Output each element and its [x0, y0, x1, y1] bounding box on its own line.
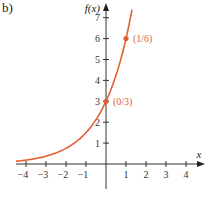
- data-point-marker: [103, 99, 108, 104]
- x-axis-title: x: [196, 148, 202, 160]
- y-tick-label: 1: [95, 138, 100, 149]
- x-tick-label: −2: [58, 169, 69, 180]
- x-tick-label: 3: [164, 169, 169, 180]
- x-tick-label: −1: [78, 169, 89, 180]
- data-point-label: (0/3): [113, 96, 132, 108]
- x-tick-label: 4: [184, 169, 189, 180]
- data-point-label: (1/6): [133, 33, 152, 45]
- y-tick-label: 6: [95, 33, 100, 44]
- y-axis-arrow-icon: [103, 3, 109, 11]
- y-tick-label: 3: [95, 96, 100, 107]
- function-curve: [16, 10, 132, 162]
- x-tick-label: −3: [38, 169, 49, 180]
- x-axis-arrow-icon: [197, 161, 205, 167]
- y-tick-label: 5: [95, 54, 100, 65]
- x-tick-label: 2: [144, 169, 149, 180]
- y-axis-title: f(x): [85, 2, 101, 15]
- data-point-marker: [123, 36, 128, 41]
- x-tick-label: 1: [124, 169, 129, 180]
- function-graph: −4−3−2−112341234567xf(x)(0/3)(1/6): [0, 0, 213, 206]
- y-tick-label: 4: [95, 75, 100, 86]
- x-tick-label: −4: [18, 169, 29, 180]
